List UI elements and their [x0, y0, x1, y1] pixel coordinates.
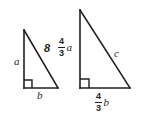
- large-triangle-right-angle-marker: [80, 79, 89, 88]
- large-triangle-horizontal-leg-label: 4 3 b: [95, 92, 109, 113]
- fraction-variable: a: [67, 42, 73, 53]
- small-right-triangle: [24, 30, 58, 88]
- fraction-numerator: 4: [96, 92, 101, 102]
- four-thirds-fraction: 4 3: [58, 37, 65, 58]
- large-triangle-hypotenuse: [80, 10, 130, 88]
- geometry-figure: a 8 b 4 3 a c 4 3 b: [0, 0, 142, 117]
- large-right-triangle: [80, 10, 130, 88]
- small-triangle-vertical-leg-label: a: [14, 56, 20, 67]
- fraction-variable: b: [104, 97, 110, 108]
- large-triangle-vertical-leg-label: 4 3 a: [58, 37, 72, 58]
- small-triangle-right-angle-marker: [24, 80, 32, 88]
- large-triangle-hypotenuse-label: c: [114, 48, 119, 59]
- four-thirds-fraction: 4 3: [95, 92, 102, 113]
- fraction-denominator: 3: [59, 48, 64, 58]
- triangles-drawing: [0, 0, 142, 117]
- fraction-denominator: 3: [96, 103, 101, 113]
- small-triangle-horizontal-leg-label: b: [37, 90, 43, 101]
- small-triangle-hypotenuse-label: 8: [44, 43, 50, 54]
- fraction-numerator: 4: [59, 37, 64, 47]
